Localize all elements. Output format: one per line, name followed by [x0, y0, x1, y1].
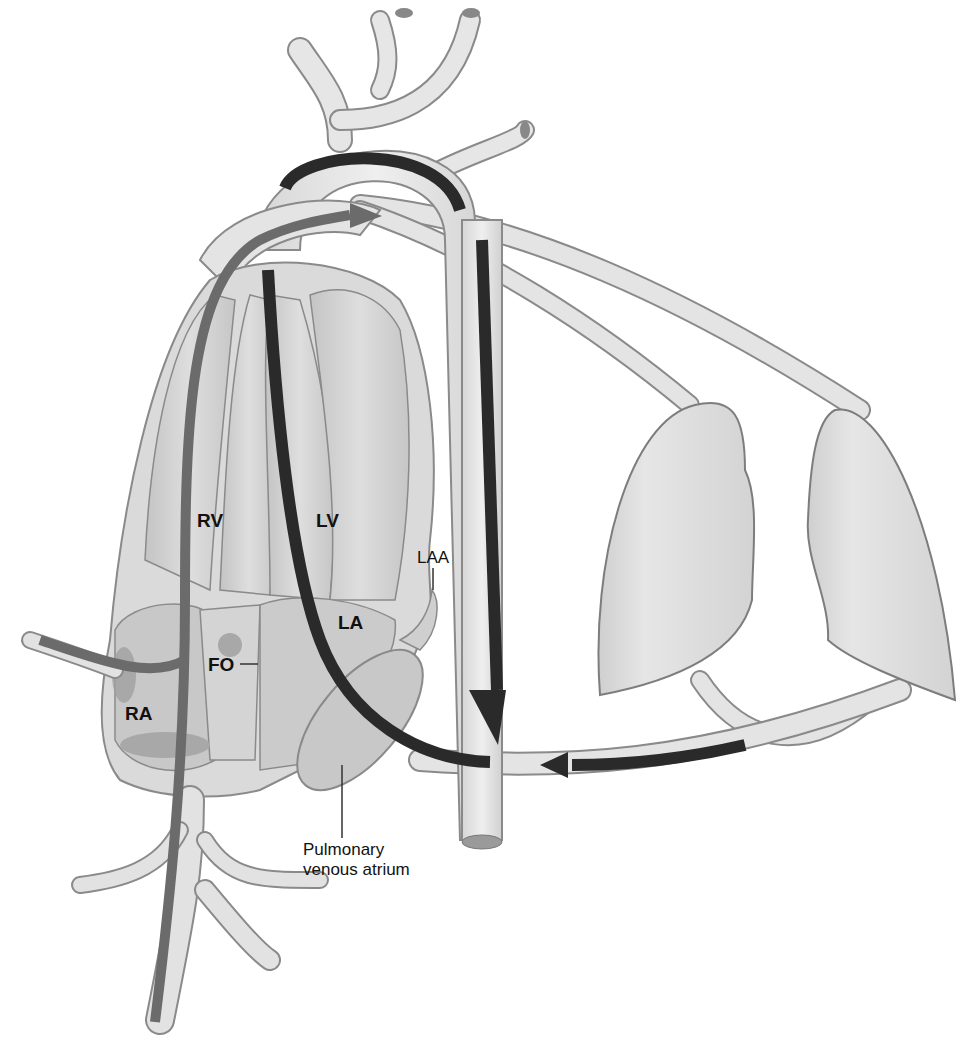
- vessel-end: [395, 8, 413, 18]
- label-pulmonary-venous-atrium: Pulmonary venous atrium: [303, 840, 410, 880]
- label-ra: RA: [125, 703, 152, 725]
- vessel-end: [520, 121, 530, 139]
- label-pva-line1: Pulmonary: [303, 840, 410, 860]
- circulation-diagram: [0, 0, 979, 1043]
- vessel-end: [462, 8, 480, 18]
- fo-chamber: [200, 605, 260, 760]
- label-laa: LAA: [417, 548, 449, 568]
- label-pva-line2: venous atrium: [303, 860, 410, 880]
- label-fo: FO: [208, 654, 234, 676]
- left-lung: [808, 409, 955, 700]
- label-la: LA: [338, 612, 363, 634]
- label-rv: RV: [197, 510, 223, 532]
- label-lv: LV: [316, 510, 339, 532]
- diagram-canvas: RV LV LAA LA FO RA Pulmonary venous atri…: [0, 0, 979, 1043]
- right-lung: [598, 403, 754, 695]
- neck-vessels: [300, 20, 525, 170]
